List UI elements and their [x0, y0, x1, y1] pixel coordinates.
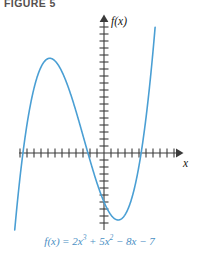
caption-function: f(x) [44, 235, 59, 247]
y-axis-label: f(x) [111, 15, 127, 28]
cubic-curve [15, 27, 155, 230]
y-axis-arrowhead [100, 15, 109, 23]
figure-container: FIGURE 5 [0, 0, 199, 258]
caption-plus: + [89, 235, 96, 247]
caption-term1-exponent: 3 [83, 233, 87, 242]
caption-term3: 8x [126, 235, 136, 247]
caption-equals: = [62, 235, 69, 247]
caption-term2-exponent: 2 [110, 233, 114, 242]
caption-minus-first: − [116, 235, 123, 247]
coordinate-plot: f(x) x [0, 0, 199, 258]
caption-term4: 7 [149, 235, 155, 247]
equation-caption: f(x) = 2x3 + 5x2 − 8x − 7 [0, 233, 199, 247]
caption-minus-second: − [139, 235, 146, 247]
x-axis-label: x [182, 157, 189, 169]
